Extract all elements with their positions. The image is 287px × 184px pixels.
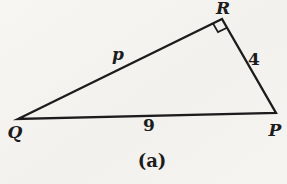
vertex-label-q: Q: [8, 122, 23, 142]
figure-canvas: R Q P p 4 9 (a): [0, 0, 287, 184]
side-label-4: 4: [248, 49, 260, 69]
vertex-label-p: P: [268, 120, 283, 140]
vertex-label-r: R: [215, 0, 230, 18]
side-label-9: 9: [143, 115, 155, 135]
triangle-outline: [18, 19, 276, 119]
side-label-p: p: [112, 44, 124, 64]
triangle-figure: R Q P p 4 9 (a): [0, 0, 287, 184]
figure-caption: (a): [138, 150, 167, 171]
